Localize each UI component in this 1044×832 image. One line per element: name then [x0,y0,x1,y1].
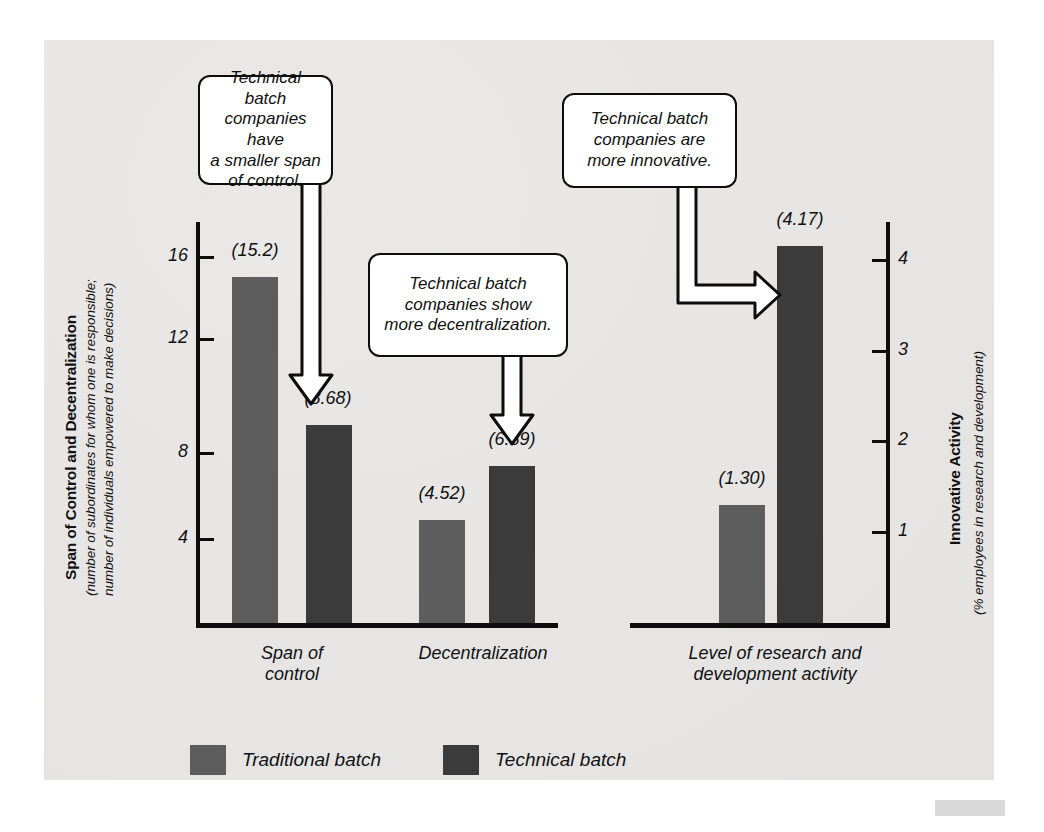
arrow-decentralization [491,355,533,444]
callout-arrows [0,0,1044,832]
legend-swatch-traditional [190,745,226,775]
callout-decentralization-line2: companies show [384,295,551,316]
callout-innovation-line2: companies are [587,130,712,151]
callout-decentralization-line1: Technical batch [384,274,551,295]
legend-item-traditional[interactable]: Traditional batch [190,745,381,775]
callout-span-line3: a smaller span [208,151,323,172]
legend-label-traditional: Traditional batch [242,749,381,771]
callout-innovation-line3: more innovative. [587,151,712,172]
arrow-innovation [678,186,780,318]
callout-decentralization[interactable]: Technical batch companies show more dece… [368,253,568,357]
legend-item-technical[interactable]: Technical batch [443,745,626,775]
callout-span-line4: of control. [208,171,323,192]
callout-innovation[interactable]: Technical batch companies are more innov… [562,93,737,188]
callout-decentralization-line3: more decentralization. [384,315,551,336]
legend-label-technical: Technical batch [495,749,626,771]
callout-span-line1: Technical batch [208,68,323,109]
legend-swatch-technical [443,745,479,775]
figure-canvas: Span of Control and Decentralization (nu… [0,0,1044,832]
callout-span-of-control[interactable]: Technical batch companies have a smaller… [198,75,333,185]
callout-span-line2: companies have [208,109,323,150]
arrow-span-of-control [290,183,332,404]
callout-innovation-line1: Technical batch [587,109,712,130]
